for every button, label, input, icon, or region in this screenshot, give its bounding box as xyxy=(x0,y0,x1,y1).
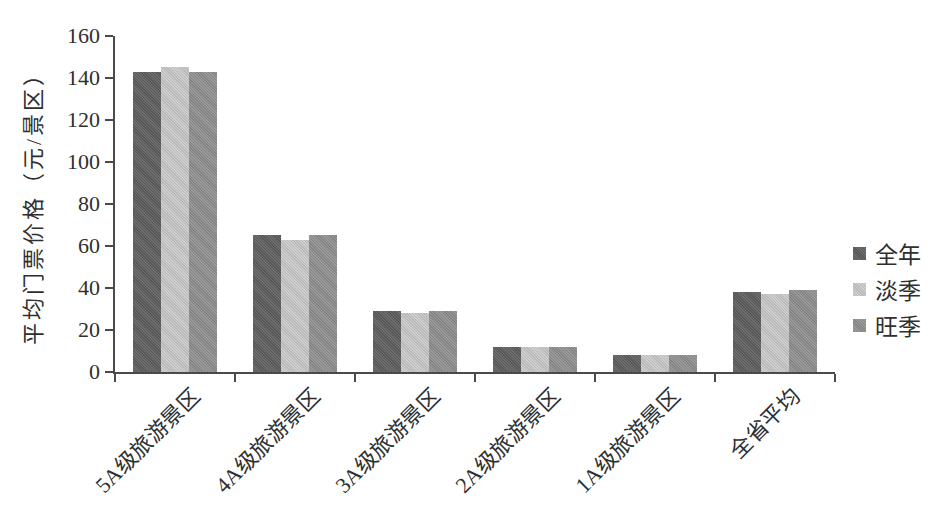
bar-全年-3A级旅游景区 xyxy=(373,311,401,372)
bar-group xyxy=(595,36,715,372)
x-category-label: 4A级旅游景区 xyxy=(211,384,325,498)
bar-淡季-1A级旅游景区 xyxy=(641,355,669,372)
x-tick-mark xyxy=(714,374,716,382)
x-tick-mark xyxy=(474,374,476,382)
bar-旺季-1A级旅游景区 xyxy=(669,355,697,372)
bar-淡季-3A级旅游景区 xyxy=(401,313,429,372)
y-tick-label: 60 xyxy=(0,233,100,259)
bar-旺季-2A级旅游景区 xyxy=(549,347,577,372)
y-tick-mark xyxy=(105,161,113,163)
bar-淡季-4A级旅游景区 xyxy=(281,240,309,372)
x-tick-mark xyxy=(594,374,596,382)
y-tick-mark xyxy=(105,329,113,331)
y-tick-mark xyxy=(105,245,113,247)
bar-全年-全省平均 xyxy=(733,292,761,372)
y-tick-label: 20 xyxy=(0,317,100,343)
x-tick-mark xyxy=(354,374,356,382)
bar-chart: 平均门票价格（元/景区） 020406080100120140160 5A级旅游… xyxy=(0,0,945,531)
y-tick-mark xyxy=(105,77,113,79)
y-tick-label: 140 xyxy=(0,65,100,91)
y-tick-label: 120 xyxy=(0,107,100,133)
bar-group xyxy=(235,36,355,372)
plot-area xyxy=(113,36,835,374)
y-tick-label: 40 xyxy=(0,275,100,301)
legend: 全年淡季旺季 xyxy=(853,240,921,348)
x-tick-mark xyxy=(834,374,836,382)
y-tick-mark xyxy=(105,371,113,373)
bar-group xyxy=(115,36,235,372)
bar-group xyxy=(475,36,595,372)
bar-旺季-5A级旅游景区 xyxy=(189,72,217,372)
bar-旺季-4A级旅游景区 xyxy=(309,235,337,372)
legend-label: 淡季 xyxy=(875,272,921,306)
x-category-label: 1A级旅游景区 xyxy=(571,384,685,498)
legend-swatch-icon xyxy=(853,247,866,260)
legend-item: 旺季 xyxy=(853,312,921,338)
bar-淡季-5A级旅游景区 xyxy=(161,67,189,372)
x-category-label: 5A级旅游景区 xyxy=(91,384,205,498)
bar-淡季-2A级旅游景区 xyxy=(521,347,549,372)
legend-swatch-icon xyxy=(853,283,866,296)
y-tick-mark xyxy=(105,35,113,37)
y-tick-mark xyxy=(105,203,113,205)
x-category-label: 全省平均 xyxy=(726,384,805,463)
legend-item: 全年 xyxy=(853,240,921,266)
bar-全年-4A级旅游景区 xyxy=(253,235,281,372)
x-category-label: 3A级旅游景区 xyxy=(331,384,445,498)
y-tick-label: 0 xyxy=(0,359,100,385)
x-tick-mark xyxy=(114,374,116,382)
bar-全年-5A级旅游景区 xyxy=(133,72,161,372)
bar-旺季-3A级旅游景区 xyxy=(429,311,457,372)
legend-label: 全年 xyxy=(875,236,921,270)
bar-淡季-全省平均 xyxy=(761,294,789,372)
y-tick-mark xyxy=(105,119,113,121)
bar-旺季-全省平均 xyxy=(789,290,817,372)
bar-group xyxy=(715,36,835,372)
y-tick-mark xyxy=(105,287,113,289)
x-category-label: 2A级旅游景区 xyxy=(451,384,565,498)
legend-swatch-icon xyxy=(853,319,866,332)
y-tick-label: 160 xyxy=(0,23,100,49)
legend-label: 旺季 xyxy=(875,308,921,342)
bar-group xyxy=(355,36,475,372)
bar-全年-1A级旅游景区 xyxy=(613,355,641,372)
bar-全年-2A级旅游景区 xyxy=(493,347,521,372)
y-tick-label: 80 xyxy=(0,191,100,217)
y-tick-label: 100 xyxy=(0,149,100,175)
legend-item: 淡季 xyxy=(853,276,921,302)
x-tick-mark xyxy=(234,374,236,382)
